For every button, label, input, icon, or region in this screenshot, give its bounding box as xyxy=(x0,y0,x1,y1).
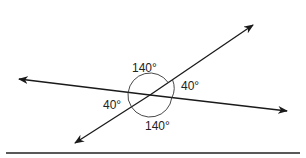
angle-arc-top xyxy=(128,73,168,92)
angle-label-right: 40° xyxy=(181,79,199,93)
angle-label-top: 140° xyxy=(132,61,157,75)
angle-arc-bottom xyxy=(132,98,172,117)
intersecting-lines-diagram: 140° 40° 40° 140° xyxy=(0,0,306,158)
nearly-horizontal-line xyxy=(19,79,150,95)
angle-label-left: 40° xyxy=(103,98,121,112)
diagonal-line xyxy=(150,25,253,95)
angle-label-bottom: 140° xyxy=(145,119,170,133)
angle-arc-left xyxy=(128,92,132,107)
angle-arc-right xyxy=(172,80,174,98)
